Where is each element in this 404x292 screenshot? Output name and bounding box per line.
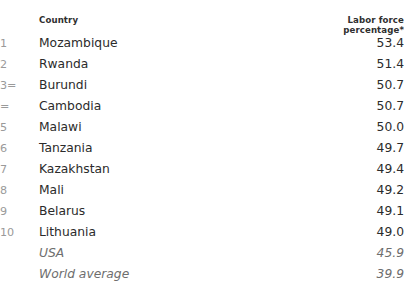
rank-cell: 1 (0, 36, 39, 57)
value-cell: 39.9 (329, 267, 404, 288)
country-cell: Burundi (39, 78, 329, 99)
country-cell: Kazakhstan (39, 162, 329, 183)
table-row: 10 Lithuania 49.0 (0, 225, 404, 246)
header-row: Country Labor force percentage* (0, 15, 404, 36)
rank-cell (0, 267, 39, 288)
table-header: Country Labor force percentage* (0, 15, 404, 36)
value-cell: 50.7 (329, 78, 404, 99)
country-cell: Cambodia (39, 99, 329, 120)
country-cell: Malawi (39, 120, 329, 141)
rank-cell: 5 (0, 120, 39, 141)
country-cell: Rwanda (39, 57, 329, 78)
rank-cell: 3= (0, 78, 39, 99)
rank-cell: = (0, 99, 39, 120)
table-row: = Cambodia 50.7 (0, 99, 404, 120)
rank-cell: 6 (0, 141, 39, 162)
value-cell: 45.9 (329, 246, 404, 267)
value-cell: 49.2 (329, 183, 404, 204)
rank-cell: 9 (0, 204, 39, 225)
value-cell: 49.1 (329, 204, 404, 225)
table-row: 5 Malawi 50.0 (0, 120, 404, 141)
country-cell: World average (39, 267, 329, 288)
value-cell: 49.4 (329, 162, 404, 183)
column-header-country: Country (39, 15, 329, 36)
table-row: 3= Burundi 50.7 (0, 78, 404, 99)
value-cell: 51.4 (329, 57, 404, 78)
table-body: 1 Mozambique 53.4 2 Rwanda 51.4 3= Burun… (0, 36, 404, 288)
country-cell: Belarus (39, 204, 329, 225)
column-header-labor-force-percentage: Labor force percentage* (329, 15, 404, 36)
country-cell: USA (39, 246, 329, 267)
value-cell: 49.0 (329, 225, 404, 246)
rank-cell (0, 246, 39, 267)
rank-cell: 7 (0, 162, 39, 183)
table-row: 2 Rwanda 51.4 (0, 57, 404, 78)
table-row-reference: USA 45.9 (0, 246, 404, 267)
value-cell: 53.4 (329, 36, 404, 57)
country-cell: Mozambique (39, 36, 329, 57)
country-cell: Lithuania (39, 225, 329, 246)
rank-cell: 8 (0, 183, 39, 204)
column-header-rank (0, 15, 39, 36)
table-row: 7 Kazakhstan 49.4 (0, 162, 404, 183)
country-cell: Tanzania (39, 141, 329, 162)
table-row: 6 Tanzania 49.7 (0, 141, 404, 162)
rank-cell: 10 (0, 225, 39, 246)
table-row: 8 Mali 49.2 (0, 183, 404, 204)
ranking-table: Country Labor force percentage* 1 Mozamb… (0, 15, 404, 288)
table-row: 1 Mozambique 53.4 (0, 36, 404, 57)
value-cell: 50.7 (329, 99, 404, 120)
ranking-table-container: Country Labor force percentage* 1 Mozamb… (0, 0, 404, 292)
rank-cell: 2 (0, 57, 39, 78)
table-row-reference: World average 39.9 (0, 267, 404, 288)
table-row: 9 Belarus 49.1 (0, 204, 404, 225)
country-cell: Mali (39, 183, 329, 204)
value-cell: 50.0 (329, 120, 404, 141)
value-cell: 49.7 (329, 141, 404, 162)
